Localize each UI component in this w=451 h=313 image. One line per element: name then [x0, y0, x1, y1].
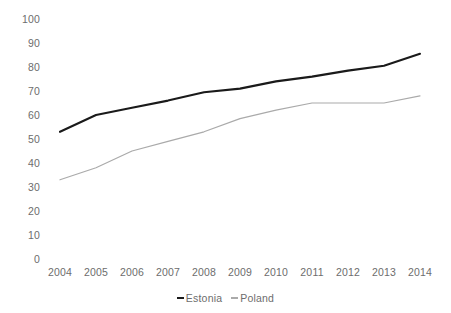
x-tick-label: 2011	[300, 266, 323, 278]
x-tick-label: 2004	[48, 266, 72, 278]
x-tick-label: 2012	[336, 266, 360, 278]
chart-legend: EstoniaPoland	[0, 292, 451, 304]
legend-label: Poland	[240, 292, 274, 304]
x-tick-label: 2009	[228, 266, 252, 278]
line-chart: 1009080706050403020100 20042005200620072…	[0, 0, 451, 313]
x-tick-label: 2005	[84, 266, 108, 278]
x-tick-label: 2014	[408, 266, 432, 278]
x-axis: 2004200520062007200820092010201120122013…	[0, 0, 451, 313]
x-tick-label: 2007	[156, 266, 180, 278]
legend-line-icon	[231, 297, 238, 299]
x-tick-label: 2008	[192, 266, 216, 278]
x-tick-label: 2013	[372, 266, 396, 278]
legend-line-icon	[177, 297, 184, 299]
legend-item-estonia[interactable]: Estonia	[177, 292, 222, 304]
legend-label: Estonia	[186, 292, 222, 304]
x-tick-label: 2010	[264, 266, 288, 278]
legend-item-poland[interactable]: Poland	[231, 292, 274, 304]
x-tick-label: 2006	[120, 266, 144, 278]
